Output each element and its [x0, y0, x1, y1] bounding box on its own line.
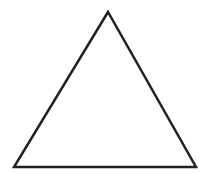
triangle-diagram: [0, 0, 204, 174]
triangle-shape: [14, 12, 196, 167]
diagram-canvas: [0, 0, 204, 174]
